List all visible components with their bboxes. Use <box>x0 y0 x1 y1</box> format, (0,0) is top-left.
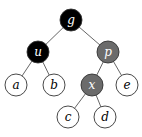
node-u: u <box>27 41 49 63</box>
node-label: c <box>65 110 72 124</box>
node-x: x <box>81 74 103 96</box>
node-a: a <box>5 74 27 96</box>
tree-nodes: gupabxecd <box>5 9 138 128</box>
node-label: u <box>34 45 42 59</box>
node-label: x <box>89 78 96 92</box>
node-label: e <box>123 78 130 92</box>
node-b: b <box>43 74 65 96</box>
node-label: d <box>101 110 109 124</box>
node-label: g <box>67 13 75 27</box>
node-d: d <box>94 106 116 128</box>
node-label: p <box>104 45 112 59</box>
node-g: g <box>60 9 82 31</box>
tree-edges <box>16 20 127 117</box>
node-c: c <box>57 106 79 128</box>
tree-diagram: gupabxecd <box>0 0 142 137</box>
node-e: e <box>116 74 138 96</box>
node-p: p <box>97 41 119 63</box>
node-label: b <box>50 78 58 92</box>
node-label: a <box>12 78 19 92</box>
